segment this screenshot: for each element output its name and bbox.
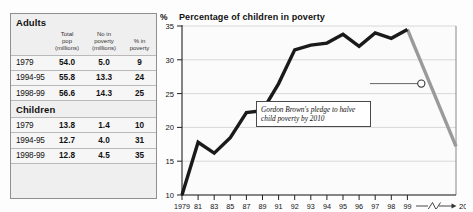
poverty-statistics-table: Adults Total pop (millions) No in povert… — [10, 13, 157, 199]
cell-pct-in-poverty: 35 — [123, 148, 156, 163]
cell-no-in-poverty: 4.0 — [85, 133, 123, 148]
arrow-head-icon — [452, 204, 457, 209]
cell-no-in-poverty: 14.3 — [85, 85, 123, 100]
plot-area: 35 30 25 20 15 10 — [160, 20, 466, 209]
y-tick-label: 35 — [166, 22, 174, 31]
header-no-in-poverty-l2: poverty — [86, 38, 122, 45]
cell-total-pop: 12.8 — [49, 148, 85, 163]
x-tick-label: 1979 — [174, 202, 190, 209]
header-no-in-poverty: No in poverty (millions) — [85, 30, 123, 55]
header-no-in-poverty-l3: (millions) — [86, 45, 122, 52]
pledge-target-marker — [418, 80, 425, 87]
axis-break-icon — [428, 203, 441, 210]
cell-no-in-poverty: 1.4 — [85, 118, 123, 133]
cell-no-in-poverty: 5.0 — [85, 55, 123, 70]
x-end-label: 2010 — [459, 202, 466, 209]
table-footer-spacer — [11, 163, 156, 175]
annotation-line-1: Gordon Brown's pledge to halve — [261, 105, 366, 114]
y-axis-labels: 35 30 25 20 15 10 — [166, 22, 174, 200]
table-section-header-adults: Adults — [11, 14, 156, 30]
cell-pct-in-poverty: 9 — [123, 55, 156, 70]
cell-total-pop: 55.8 — [49, 70, 85, 85]
x-tick-label: 81 — [194, 202, 202, 209]
cell-total-pop: 56.6 — [49, 85, 85, 100]
cell-total-pop: 12.7 — [49, 133, 85, 148]
cell-year: 1979 — [11, 118, 49, 133]
header-total-pop: Total pop (millions) — [49, 30, 85, 55]
x-tick-label: 99 — [403, 202, 411, 209]
x-axis-labels: 1979 81 83 85 87 89 91 92 93 94 95 96 97… — [174, 202, 411, 209]
table-row: 1979 54.0 5.0 9 — [11, 55, 156, 70]
header-no-in-poverty-l1: No in — [86, 31, 122, 38]
x-axis-break-and-arrow: 2010 — [416, 202, 466, 209]
cell-total-pop: 54.0 — [49, 55, 85, 70]
cell-pct-in-poverty: 31 — [123, 133, 156, 148]
x-axis-ticks — [182, 195, 407, 200]
table-column-headers: Total pop (millions) No in poverty (mill… — [11, 30, 156, 55]
table-row: 1994-95 55.8 13.3 24 — [11, 70, 156, 85]
table-section-header-children: Children — [11, 101, 156, 118]
annotation-line-2: child poverty by 2010 — [261, 114, 366, 123]
y-tick-label: 15 — [166, 157, 174, 166]
cell-no-in-poverty: 13.3 — [85, 70, 123, 85]
header-pct-in-poverty-l1: % in — [124, 38, 155, 45]
cell-total-pop: 13.8 — [49, 118, 85, 133]
cell-pct-in-poverty: 25 — [123, 85, 156, 100]
header-total-pop-l2: pop — [50, 38, 84, 45]
x-tick-label: 98 — [387, 202, 395, 209]
poverty-line-chart: % Percentage of children in poverty — [160, 4, 466, 209]
cell-year: 1998-99 — [11, 148, 49, 163]
x-tick-label: 95 — [339, 202, 347, 209]
x-tick-label: 89 — [259, 202, 267, 209]
cell-year: 1994-95 — [11, 70, 49, 85]
y-tick-label: 10 — [166, 191, 174, 200]
y-tick-label: 20 — [166, 123, 174, 132]
table-row: 1998-99 56.6 14.3 25 — [11, 85, 156, 100]
figure-root: Adults Total pop (millions) No in povert… — [0, 0, 473, 212]
x-tick-label: 96 — [355, 202, 363, 209]
cell-year: 1994-95 — [11, 133, 49, 148]
header-total-pop-l1: Total — [50, 31, 84, 38]
cell-year: 1998-99 — [11, 85, 49, 100]
x-tick-label: 91 — [275, 202, 283, 209]
cell-no-in-poverty: 4.5 — [85, 148, 123, 163]
annotation-callout: Gordon Brown's pledge to halve child pov… — [256, 101, 371, 127]
cell-pct-in-poverty: 10 — [123, 118, 156, 133]
x-tick-label: 94 — [323, 202, 331, 209]
cell-pct-in-poverty: 24 — [123, 70, 156, 85]
table-row: 1994-95 12.7 4.0 31 — [11, 133, 156, 148]
x-tick-label: 93 — [307, 202, 315, 209]
y-axis-ticks — [177, 26, 182, 195]
header-total-pop-l3: (millions) — [50, 45, 84, 52]
table-row: 1979 13.8 1.4 10 — [11, 118, 156, 133]
x-tick-label: 83 — [210, 202, 218, 209]
header-blank — [11, 30, 49, 55]
header-pct-in-poverty: % in poverty — [123, 30, 156, 55]
header-pct-in-poverty-l2: poverty — [124, 45, 155, 52]
x-tick-label: 85 — [226, 202, 234, 209]
y-tick-label: 25 — [166, 90, 174, 99]
table-row: 1998-99 12.8 4.5 35 — [11, 148, 156, 163]
y-tick-label: 30 — [166, 56, 174, 65]
cell-year: 1979 — [11, 55, 49, 70]
section-title-children: Children — [11, 101, 156, 118]
x-tick-label: 87 — [242, 202, 250, 209]
x-tick-label: 97 — [371, 202, 379, 209]
x-tick-label: 92 — [291, 202, 299, 209]
section-title-adults: Adults — [11, 14, 156, 30]
table: Adults Total pop (millions) No in povert… — [11, 14, 156, 175]
